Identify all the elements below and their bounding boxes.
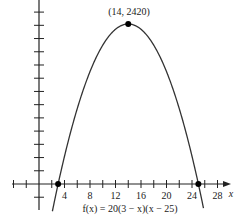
vertex-label: (14, 2420) (108, 6, 150, 18)
x-tick-label: 20 (162, 190, 172, 201)
x-tick-label: 12 (111, 190, 121, 201)
function-label: f(x) = 20(3 − x)(x − 25) (82, 203, 177, 215)
axes (12, 0, 231, 210)
x-tick-label: 16 (136, 190, 146, 201)
x-tick-label: 28 (213, 190, 223, 201)
x-tick-labels: 481216202428 (62, 190, 223, 201)
x-tick-label: 24 (187, 190, 197, 201)
x-tick-label: 8 (88, 190, 93, 201)
data-point (55, 181, 61, 187)
data-point (195, 181, 201, 187)
parabola-chart: (14, 2420) x 481216202428 f(x) = 20(3 − … (0, 0, 239, 217)
x-axis-arrow-icon (223, 181, 231, 187)
x-axis-label: x (228, 188, 234, 199)
key-points (55, 21, 201, 187)
data-point (125, 21, 131, 27)
x-tick-label: 4 (62, 190, 67, 201)
